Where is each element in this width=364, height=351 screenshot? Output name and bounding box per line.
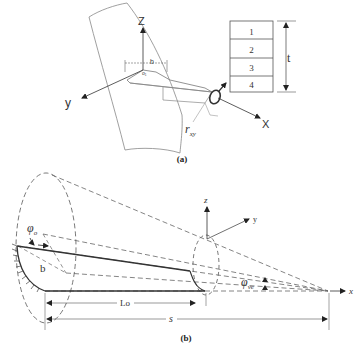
- z-axis-label-b: z: [203, 195, 208, 205]
- phi-o-label: φo: [27, 221, 38, 237]
- panel-a: Z y X b o₁ rxy 1 2 3 4: [65, 3, 296, 164]
- s-label: s: [169, 313, 173, 324]
- x-axis-label-a: X: [262, 118, 270, 130]
- cantilever-beam: [127, 70, 212, 92]
- x-axis-label-b: x: [348, 286, 353, 296]
- phi-ve-label: φve: [241, 275, 254, 291]
- panel-b: φo b z y x φve Lo s (b): [12, 173, 353, 343]
- lo-label: Lo: [120, 298, 130, 308]
- y-axis-b: [207, 219, 249, 239]
- z-axis-label-a: Z: [138, 15, 145, 27]
- layer-4: 4: [249, 80, 254, 90]
- layer-2: 2: [249, 45, 254, 55]
- caption-a: (a): [177, 154, 188, 164]
- base-ellipse: [16, 173, 76, 323]
- origin-label-a: o₁: [142, 70, 147, 76]
- layer-1: 1: [249, 27, 254, 37]
- y-axis-label-a: y: [65, 96, 71, 110]
- caption-b: (b): [181, 333, 192, 343]
- thickness-label: t: [287, 51, 291, 65]
- width-label-a: b: [150, 58, 154, 65]
- b-label: b: [40, 262, 46, 274]
- y-axis-label-b: y: [253, 215, 257, 224]
- figure-canvas: Z y X b o₁ rxy 1 2 3 4: [0, 0, 364, 351]
- curved-surface: [89, 3, 182, 153]
- layer-3: 3: [249, 63, 254, 73]
- x-axis-a: [218, 98, 260, 118]
- radius-label-a: rxy: [185, 122, 197, 138]
- layer-stack: 1 2 3 4: [230, 21, 273, 92]
- y-axis-a: [82, 70, 143, 98]
